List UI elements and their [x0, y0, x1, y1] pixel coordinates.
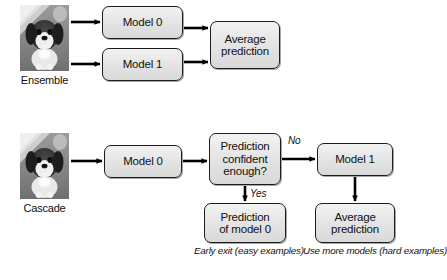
node-label-line-1: Average	[334, 211, 375, 223]
node-label-line-2: prediction	[331, 223, 379, 235]
ensemble-input-image	[20, 5, 69, 71]
cascade-input-image	[20, 133, 69, 199]
note-line-2: (easy examples)	[235, 245, 304, 256]
cascade-row-label: Cascade	[20, 202, 69, 214]
node-label-line-1: Prediction	[220, 211, 269, 223]
node-ensemble-model-1[interactable]: Model 1	[102, 48, 183, 81]
note-line-2: (hard examples)	[379, 245, 447, 256]
node-label-line-1: Prediction	[220, 140, 269, 152]
node-label-line-1: Average	[224, 33, 265, 45]
node-label-line-2: prediction	[221, 45, 269, 57]
ensemble-row-label: Ensemble	[20, 74, 69, 86]
node-label: Model 1	[335, 153, 375, 165]
node-cascade-model-1[interactable]: Model 1	[317, 143, 393, 176]
edge-label-no: No	[288, 135, 301, 146]
note-early-exit: Early exit (easy examples)	[194, 245, 296, 257]
note-line-1: Early exit	[194, 245, 232, 256]
node-label: Model 0	[123, 155, 163, 167]
node-cascade-decision-confident[interactable]: Prediction confident enough?	[209, 133, 281, 185]
node-ensemble-model-0[interactable]: Model 0	[102, 6, 183, 39]
note-use-more-models: Use more models (hard examples)	[303, 245, 407, 257]
note-line-1: Use more models	[303, 245, 377, 256]
node-label-line-2: confident	[223, 153, 268, 165]
node-cascade-prediction-of-model-0[interactable]: Prediction of model 0	[204, 203, 286, 243]
node-label-line-3: enough?	[223, 165, 266, 177]
node-label: Model 1	[123, 58, 163, 70]
edge-label-yes: Yes	[250, 188, 266, 199]
node-ensemble-average-prediction[interactable]: Average prediction	[210, 21, 280, 69]
node-label-line-2: of model 0	[219, 223, 271, 235]
node-cascade-model-0[interactable]: Model 0	[104, 145, 182, 178]
node-label: Model 0	[123, 16, 163, 28]
node-cascade-average-prediction[interactable]: Average prediction	[315, 203, 395, 243]
